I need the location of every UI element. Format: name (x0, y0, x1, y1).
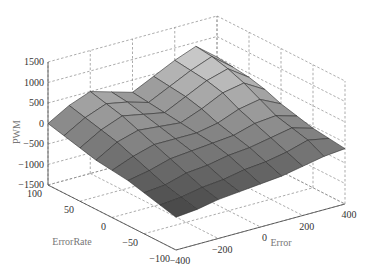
x-tick-label: 0 (262, 232, 267, 243)
x-tick-label: −400 (170, 255, 191, 266)
z-tick-label: 1000 (24, 77, 44, 88)
y-tick-label: 0 (101, 221, 106, 232)
z-tick-label: 500 (29, 97, 44, 108)
y-tick-label: −50 (122, 237, 138, 248)
surface-mesh (48, 46, 345, 217)
z-tick-label: −1000 (18, 159, 44, 170)
x-tick-label: 200 (299, 221, 314, 232)
y-tick-label: 100 (27, 188, 42, 199)
x-tick-label: 400 (342, 209, 357, 220)
y-axis-label: ErrorRate (52, 236, 92, 247)
z-tick-label: 1500 (24, 56, 44, 67)
surface-plot: 150010005000−500−1000−1500100500−50−100−… (0, 0, 372, 277)
x-tick-label: −200 (212, 244, 233, 255)
z-axis-label: PWM (11, 120, 22, 144)
y-tick-label: 50 (64, 204, 74, 215)
z-tick-label: −500 (23, 138, 44, 149)
x-axis-label: Error (270, 237, 292, 248)
axis-line (176, 204, 345, 250)
y-tick-label: −100 (149, 253, 170, 264)
z-tick-label: 0 (39, 118, 44, 129)
